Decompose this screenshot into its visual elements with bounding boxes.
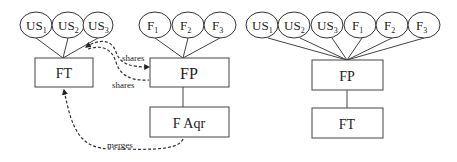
left-diagram: US1 US2 US3 F1 F2 F3 FT FP	[20, 12, 236, 150]
right-ellipse-f2: F2	[376, 12, 408, 38]
svg-text:FP: FP	[339, 69, 355, 84]
right-ellipse-f3: F3	[408, 12, 440, 38]
ellipses-to-fp-edges	[268, 38, 424, 60]
left-ellipse-us2: US2	[52, 12, 84, 38]
right-box-fp: FP	[312, 60, 383, 90]
svg-text:FT: FT	[56, 66, 73, 81]
right-ellipse-f1: F1	[344, 12, 376, 38]
right-box-ft: FT	[312, 108, 383, 138]
svg-text:FP: FP	[180, 65, 198, 82]
svg-text:merges: merges	[107, 140, 133, 150]
svg-text:shares: shares	[122, 53, 145, 63]
shares-arrow-top: shares	[86, 41, 149, 67]
right-diagram: US1 US2 US3 F1 F2 F3 FP FT	[246, 12, 440, 138]
left-box-fp: FP	[150, 58, 229, 87]
diagram-canvas: US1 US2 US3 F1 F2 F3 FT FP	[0, 0, 457, 162]
left-box-faqr: F Aqr	[150, 107, 229, 137]
svg-text:FT: FT	[339, 117, 356, 132]
left-ellipse-f2: F2	[172, 12, 204, 38]
left-ellipse-us3: US3	[83, 12, 113, 38]
right-ellipse-us2: US2	[278, 12, 310, 38]
left-box-ft: FT	[35, 58, 93, 87]
svg-text:F Aqr: F Aqr	[173, 116, 206, 131]
left-ellipse-f1: F1	[139, 12, 171, 38]
us-to-ft-edges	[36, 38, 98, 58]
right-ellipse-us3: US3	[311, 12, 343, 38]
f-to-fp-edges	[155, 38, 220, 58]
right-ellipse-us1: US1	[246, 12, 278, 38]
left-ellipse-f3: F3	[204, 12, 236, 38]
left-ellipse-us1: US1	[20, 12, 52, 38]
svg-text:shares: shares	[112, 80, 135, 90]
